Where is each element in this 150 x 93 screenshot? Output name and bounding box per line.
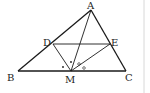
- segment-CA: [91, 10, 126, 71]
- label-B: B: [7, 72, 14, 83]
- geometry-diagram: A B C D E M: [0, 0, 150, 93]
- angle-mark-dot-2: [62, 66, 64, 68]
- label-M: M: [65, 74, 75, 85]
- segment-DM: [53, 44, 71, 71]
- label-C: C: [125, 72, 133, 83]
- label-E: E: [111, 37, 118, 48]
- segment-AB: [18, 10, 91, 71]
- label-D: D: [43, 37, 51, 48]
- angle-mark-circle-2: [83, 67, 86, 70]
- angle-mark-dot-1: [70, 61, 72, 63]
- label-A: A: [86, 0, 95, 11]
- segment-EM: [71, 44, 110, 71]
- angle-mark-circle-1: [78, 63, 81, 66]
